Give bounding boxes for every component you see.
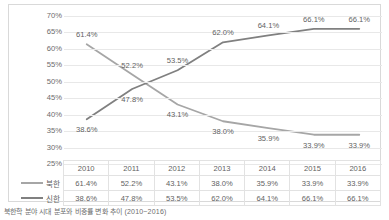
table-cell: 64.1% [245, 191, 290, 206]
gridline [64, 82, 382, 83]
gridline [64, 115, 382, 116]
gridline [64, 65, 382, 66]
legend-item-신한[interactable]: 신한 [8, 191, 64, 206]
data-point-label: 61.4% [76, 31, 98, 39]
y-axis-tick-label: 45% [26, 94, 62, 102]
data-point-label: 47.8% [121, 96, 143, 104]
data-point-label: 33.9% [303, 142, 325, 150]
gridline [64, 16, 382, 17]
table-cell: 66.1% [290, 191, 335, 206]
table-cell: 38.6% [64, 191, 109, 206]
table-header-cell: 2011 [109, 161, 154, 176]
data-point-label: 53.5% [167, 57, 189, 65]
table-header-cell: 2016 [335, 161, 380, 176]
data-point-label: 38.0% [212, 128, 234, 136]
table-header-cell: 2014 [245, 161, 290, 176]
table-header-cell: 2012 [154, 161, 199, 176]
y-axis-tick-label: 55% [26, 61, 62, 69]
y-axis-tick-label: 40% [26, 111, 62, 119]
legend-label: 북한 [46, 178, 60, 189]
table-cell: 33.9% [335, 176, 380, 191]
data-table: 2010201120122013201420152016북한61.4%52.2%… [8, 160, 381, 206]
data-point-label: 43.1% [167, 111, 189, 119]
table-cell: 52.2% [109, 176, 154, 191]
legend-line-swatch [21, 197, 43, 199]
gridline [64, 49, 382, 50]
data-point-label: 35.9% [258, 135, 280, 143]
table-cell: 61.4% [64, 176, 109, 191]
table-header-cell: 2013 [199, 161, 244, 176]
y-axis-tick-label: 70% [26, 12, 62, 20]
table-cell: 53.5% [154, 191, 199, 206]
table-corner-cell [8, 161, 64, 176]
chart-caption: 북한학 분야 시대 분포와 비중률 변화 추이 (2010~2016) [4, 206, 167, 216]
table-header-row: 2010201120122013201420152016 [8, 161, 381, 176]
gridline [64, 98, 382, 99]
data-point-label: 62.0% [212, 29, 234, 37]
y-axis-tick-label: 65% [26, 28, 62, 36]
y-axis: 70%65%60%55%50%45%40%35%30%25% [22, 16, 62, 164]
data-point-label: 64.1% [258, 22, 280, 30]
table-cell: 43.1% [154, 176, 199, 191]
data-point-label: 66.1% [303, 16, 325, 24]
table-cell: 38.0% [199, 176, 244, 191]
y-axis-tick-label: 60% [26, 45, 62, 53]
data-point-label: 52.2% [121, 62, 143, 70]
table-header-cell: 2015 [290, 161, 335, 176]
legend-item-북한[interactable]: 북한 [8, 176, 64, 191]
data-point-label: 38.6% [76, 126, 98, 134]
table-cell: 33.9% [290, 176, 335, 191]
y-axis-tick-label: 50% [26, 78, 62, 86]
data-point-label: 33.9% [349, 142, 371, 150]
legend-line-swatch [21, 182, 43, 184]
table-header-cell: 2010 [64, 161, 109, 176]
table-cell: 62.0% [199, 191, 244, 206]
table-row: 북한61.4%52.2%43.1%38.0%35.9%33.9%33.9% [8, 176, 381, 191]
y-axis-tick-label: 35% [26, 127, 62, 135]
table-row: 신한38.6%47.8%53.5%62.0%64.1%66.1%66.1% [8, 191, 381, 206]
table-cell: 35.9% [245, 176, 290, 191]
series-line-북한 [87, 44, 360, 134]
y-axis-tick-label: 30% [26, 144, 62, 152]
plot-area: 61.4%52.2%43.1%38.0%35.9%33.9%33.9%38.6%… [64, 16, 382, 164]
table-cell: 66.1% [335, 191, 380, 206]
gridline [64, 148, 382, 149]
data-point-label: 66.1% [349, 16, 371, 24]
legend-label: 신한 [46, 193, 60, 204]
table-cell: 47.8% [109, 191, 154, 206]
line-series-svg [64, 16, 382, 164]
series-line-신한 [87, 29, 360, 119]
